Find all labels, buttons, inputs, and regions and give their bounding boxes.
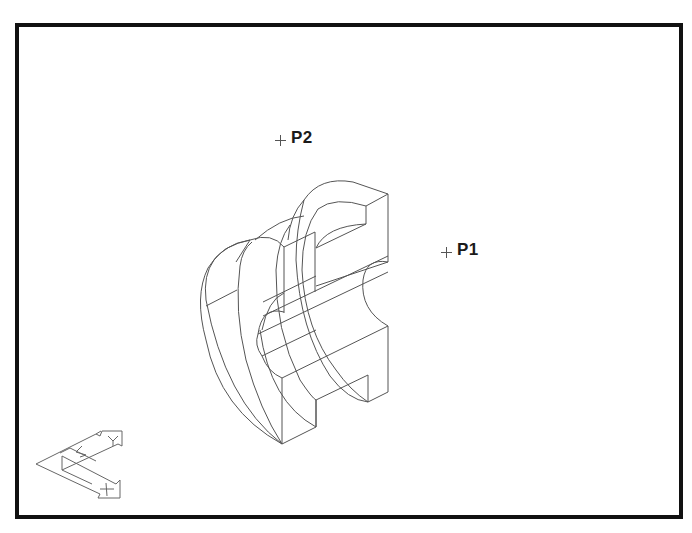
y-axis-label-icon [108, 436, 118, 441]
coordinate-triad-icon [0, 0, 692, 533]
